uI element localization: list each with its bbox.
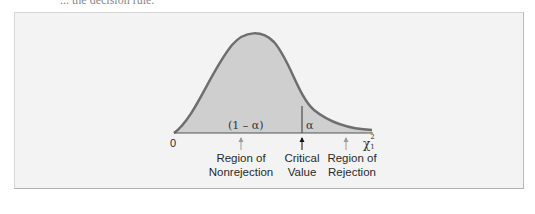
region-rejection-line1: Region of xyxy=(322,151,382,165)
region-nonrejection-label: Region of Nonrejection xyxy=(203,151,279,179)
nonrejection-area-label: (1 – α) xyxy=(228,119,264,132)
axis-superscript: 2 xyxy=(370,133,374,141)
pointer-nonrejection-icon xyxy=(239,137,244,150)
axis-label: χ21 xyxy=(363,137,370,151)
curve-area-fill xyxy=(174,33,372,133)
region-rejection-line2: Rejection xyxy=(322,165,382,179)
axis-subscript: 1 xyxy=(370,143,374,151)
region-nonrejection-line2: Nonrejection xyxy=(203,165,279,179)
critical-value-line1: Critical xyxy=(280,151,324,165)
pointer-rejection-icon xyxy=(344,137,349,150)
origin-label: 0 xyxy=(170,136,176,150)
pointer-critical-value-icon xyxy=(300,137,305,150)
critical-value-line2: Value xyxy=(280,165,324,179)
region-nonrejection-line1: Region of xyxy=(203,151,279,165)
critical-value-label: Critical Value xyxy=(280,151,324,179)
axis-symbol: χ xyxy=(363,137,370,151)
chi-square-chart xyxy=(0,0,535,214)
region-rejection-label: Region of Rejection xyxy=(322,151,382,179)
rejection-area-label: α xyxy=(306,119,313,132)
